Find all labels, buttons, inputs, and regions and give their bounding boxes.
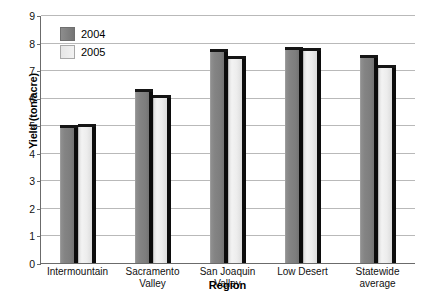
legend-item-2004: 2004 (60, 26, 146, 42)
bar-2004-intermountain (60, 125, 74, 263)
bar-side-shadow (317, 51, 321, 263)
y-tick-label: 2 (29, 203, 35, 215)
y-tick-label: 5 (29, 120, 35, 132)
legend-label: 2005 (81, 46, 105, 58)
bar-top-cap (360, 55, 374, 58)
bar-top-cap (210, 49, 224, 52)
y-tick-label: 8 (29, 38, 35, 50)
y-axis-title: Yield (ton/acre) (27, 31, 39, 191)
y-tick-mark (37, 264, 40, 265)
y-axis-line (40, 16, 41, 265)
bar-2005-san-joaquin-valley (228, 56, 242, 263)
y-tick-mark (37, 154, 40, 155)
y-tick-label: 7 (29, 65, 35, 77)
bar-body (303, 48, 317, 263)
legend-item-2005: 2005 (60, 44, 146, 60)
y-tick-mark (37, 44, 40, 45)
bar-2004-sacramento-valley (135, 89, 149, 263)
bar-2004-san-joaquin-valley (210, 49, 224, 263)
bar-side-shadow (92, 127, 96, 263)
legend-label: 2004 (81, 28, 105, 40)
bar-top-bevel (374, 55, 378, 58)
bar-2005-sacramento-valley (153, 95, 167, 263)
x-tick-label: Low Desert (265, 266, 340, 278)
bar-top-cap (78, 124, 92, 127)
y-tick-mark (37, 71, 40, 72)
bar-side-shadow (242, 59, 246, 263)
x-tick-label-line: Low Desert (265, 266, 340, 278)
bar-top-cap (60, 125, 74, 128)
x-tick-label-line: Statewide (340, 266, 415, 278)
bar-top-bevel (317, 48, 321, 51)
bar-top-bevel (167, 95, 171, 98)
x-tick-label: Intermountain (40, 266, 115, 278)
legend: 20042005 (60, 26, 146, 62)
bar-2004-low-desert (285, 47, 299, 263)
y-tick-mark (37, 99, 40, 100)
bar-2004-statewide-average (360, 55, 374, 263)
x-tick-label-line: Intermountain (40, 266, 115, 278)
bar-top-cap (303, 48, 317, 51)
bar-body (228, 56, 242, 263)
y-tick-mark (37, 209, 40, 210)
y-tick-mark (37, 126, 40, 127)
bar-body (78, 124, 92, 263)
bar-body (285, 47, 299, 263)
bar-2005-intermountain (78, 124, 92, 263)
bar-top-cap (378, 65, 392, 68)
bar-top-cap (135, 89, 149, 92)
y-tick-label: 0 (29, 258, 35, 270)
bar-2005-low-desert (303, 48, 317, 263)
bar-body (210, 49, 224, 263)
y-tick-mark (37, 16, 40, 17)
x-tick-label-line: Sacramento (115, 266, 190, 278)
y-tick-label: 1 (29, 230, 35, 242)
bar-top-bevel (149, 89, 153, 92)
y-tick-label: 6 (29, 93, 35, 105)
bar-top-cap (228, 56, 242, 59)
bar-body (153, 95, 167, 263)
legend-swatch-icon (60, 27, 75, 41)
bar-top-bevel (392, 65, 396, 68)
bar-side-shadow (392, 68, 396, 263)
legend-swatch-icon (60, 45, 75, 59)
bar-top-bevel (92, 124, 96, 127)
bar-body (360, 55, 374, 263)
bar-side-shadow (167, 98, 171, 263)
bar-2005-statewide-average (378, 65, 392, 263)
y-tick-mark (37, 236, 40, 237)
y-tick-label: 3 (29, 175, 35, 187)
bar-body (135, 89, 149, 263)
y-tick-label: 4 (29, 148, 35, 160)
bar-top-bevel (224, 49, 228, 52)
bar-body (378, 65, 392, 263)
bar-top-cap (153, 95, 167, 98)
bar-top-bevel (242, 56, 246, 59)
x-axis-title: Region (40, 279, 415, 291)
bar-top-cap (285, 47, 299, 50)
gridline (41, 15, 415, 16)
y-tick-label: 9 (29, 10, 35, 22)
bar-body (60, 125, 74, 263)
y-tick-mark (37, 181, 40, 182)
x-axis-line (40, 263, 415, 264)
yield-by-region-bar-chart: Yield (ton/acre) 0123456789 20042005 Int… (0, 0, 427, 297)
